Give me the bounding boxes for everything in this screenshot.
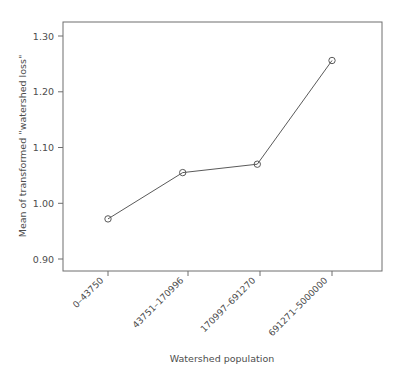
y-tick-label-0-90: 0.90	[33, 254, 54, 265]
x-axis-title: Watershed population	[170, 353, 275, 364]
x-tick-label-1: 0–43750	[71, 275, 106, 310]
x-tick-label-4: 691271–5000000	[267, 275, 330, 338]
y-tick-label-1-10: 1.10	[33, 142, 54, 153]
y-axis-ticks	[58, 36, 63, 259]
plot-frame	[63, 22, 382, 271]
chart-container: 1.30 1.20 1.10 1.00 0.90 0–43750 43751–1…	[0, 0, 401, 379]
y-axis-title: Mean of transformed "watershed loss"	[17, 55, 28, 238]
data-line-series-1	[108, 61, 332, 219]
x-axis-tick-labels: 0–43750 43751–170996 170997–691270 69127…	[71, 275, 330, 338]
x-tick-label-2: 43751–170996	[131, 275, 186, 330]
y-tick-label-1-30: 1.30	[33, 31, 54, 42]
x-tick-label-3: 170997–691270	[199, 275, 258, 334]
y-axis-tick-labels: 1.30 1.20 1.10 1.00 0.90	[33, 31, 54, 265]
y-tick-label-1-20: 1.20	[33, 86, 54, 97]
y-tick-label-1-00: 1.00	[33, 198, 54, 209]
line-chart: 1.30 1.20 1.10 1.00 0.90 0–43750 43751–1…	[0, 0, 401, 379]
data-markers	[105, 57, 335, 222]
x-axis-ticks	[108, 271, 332, 276]
